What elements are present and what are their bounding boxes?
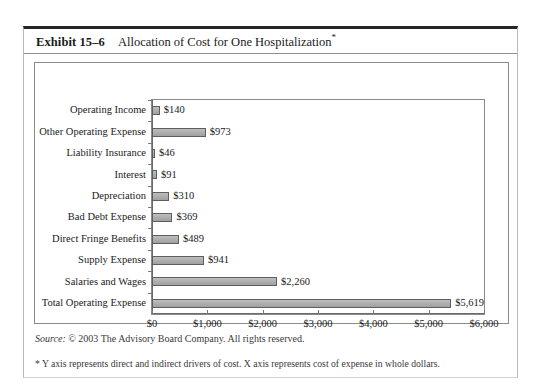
bar-row: Salaries and Wages$2,260 [152,271,484,292]
bar-row: Liability Insurance$46 [152,143,484,164]
bar [152,277,277,286]
x-axis-tick-label: $6,000 [470,318,499,329]
bar-row: Operating Income$140 [152,100,484,121]
bar-value-label: $2,260 [281,277,310,288]
exhibit-number: Exhibit 15–6 [36,35,105,49]
bar-row: Direct Fringe Benefits$489 [152,228,484,249]
x-axis-tick [263,310,264,314]
bar-value-label: $91 [161,170,177,181]
exhibit-caption: Allocation of Cost for One Hospitalizati… [118,35,332,49]
x-axis-tick [484,310,485,314]
bar-value-label: $489 [183,234,204,245]
x-axis-tick [152,310,153,314]
y-axis-tick [148,100,152,101]
bar-row: Depreciation$310 [152,186,484,207]
x-axis-tick-label: $3,000 [304,318,333,329]
bar-chart-plot-area: Operating Income$140Other Operating Expe… [151,99,485,315]
category-label: Operating Income [70,105,146,116]
bar-row: Supply Expense$941 [152,250,484,271]
exhibit-footer: Source: © 2003 The Advisory Board Compan… [35,332,505,371]
y-axis-tick [148,228,152,229]
category-label: Bad Debt Expense [68,212,146,223]
bar [152,149,155,158]
bar-row: Interest$91 [152,164,484,185]
y-axis-tick [148,293,152,294]
y-axis-tick [148,186,152,187]
x-axis-tick-label: $2,000 [248,318,277,329]
x-axis-tick [318,310,319,314]
exhibit-title: Exhibit 15–6Allocation of Cost for One H… [24,32,517,54]
y-axis-tick [148,207,152,208]
bar-value-label: $941 [208,255,229,266]
y-axis-tick [148,164,152,165]
bar [152,256,204,265]
category-label: Total Operating Expense [42,298,146,309]
bar [152,128,206,137]
source-line: Source: © 2003 The Advisory Board Compan… [35,332,505,345]
bar-value-label: $973 [210,127,231,138]
footnote-line: * Y axis represents direct and indirect … [35,358,505,371]
x-axis-tick [207,310,208,314]
x-axis-tick-label: $1,000 [193,318,222,329]
category-label: Salaries and Wages [65,277,146,288]
y-axis-tick [148,271,152,272]
bar-value-label: $310 [173,191,194,202]
y-axis-tick [148,121,152,122]
exhibit-frame: Exhibit 15–6Allocation of Cost for One H… [23,26,518,378]
bar [152,106,160,115]
y-axis-tick [148,250,152,251]
bar-value-label: $140 [164,105,185,116]
source-text: © 2003 The Advisory Board Company. All r… [68,333,304,344]
bar-row: Other Operating Expense$973 [152,121,484,142]
caption-marker-icon: * [331,32,336,42]
source-label: Source: [35,333,66,344]
bar [152,170,157,179]
category-label: Liability Insurance [66,148,146,159]
bar [152,213,172,222]
x-axis-tick [429,310,430,314]
category-label: Depreciation [92,191,146,202]
bar-row: Bad Debt Expense$369 [152,207,484,228]
x-axis-tick-label: $0 [147,318,158,329]
category-label: Interest [115,170,147,181]
bar-value-label: $5,619 [455,298,484,309]
bar [152,299,451,308]
x-axis-tick-label: $4,000 [359,318,388,329]
category-label: Direct Fringe Benefits [52,234,146,245]
bar [152,235,179,244]
y-axis-tick [148,143,152,144]
x-axis-tick-label: $5,000 [414,318,443,329]
x-axis-tick [373,310,374,314]
bar [152,192,169,201]
chart-panel: Operating Income$140Other Operating Expe… [34,62,509,324]
category-label: Supply Expense [78,255,146,266]
bar-value-label: $46 [159,148,175,159]
bar-value-label: $369 [176,212,197,223]
category-label: Other Operating Expense [39,127,146,138]
